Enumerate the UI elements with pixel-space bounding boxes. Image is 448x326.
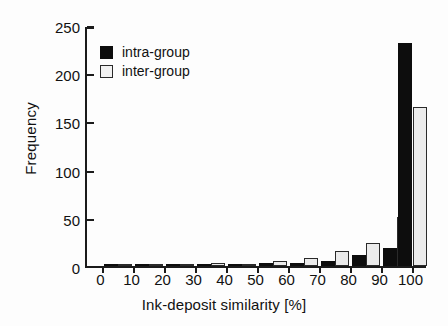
histogram-chart: Frequency 050100150200250 01020304050607…: [0, 0, 448, 326]
x-tick-label: 30: [185, 272, 202, 288]
bar-intra-group: [259, 263, 273, 266]
legend-label: intra-group: [122, 45, 190, 59]
x-tick-label: 80: [340, 272, 357, 288]
x-tick-label: 10: [123, 272, 140, 288]
bar-inter-group: [211, 263, 225, 266]
bar-intra-group: [321, 261, 335, 266]
x-tick-label: 50: [247, 272, 264, 288]
legend-swatch-intra-group-icon: [100, 46, 113, 59]
bar-intra-group: [383, 248, 397, 266]
legend-label: inter-group: [122, 64, 190, 78]
bar-intra-group: [166, 264, 180, 266]
x-tick-label: 60: [278, 272, 295, 288]
x-tick-label: 70: [309, 272, 326, 288]
y-tick-label: 100: [55, 164, 80, 179]
y-tick-label: 0: [72, 261, 80, 276]
x-axis-title: Ink-deposit similarity [%]: [0, 296, 448, 313]
bar-inter-group: [180, 264, 194, 266]
y-axis-tick-labels: 050100150200250: [40, 0, 80, 326]
bar-inter-group: [413, 107, 427, 266]
x-axis-tick-labels: 0102030405060708090100: [85, 272, 426, 292]
y-tick-label: 250: [55, 20, 80, 35]
bar-intra-group: [398, 43, 412, 266]
bar-inter-group: [118, 264, 132, 266]
x-tick-label: 0: [96, 272, 104, 288]
x-tick-label: 40: [216, 272, 233, 288]
y-tick-label: 200: [55, 68, 80, 83]
y-axis-title: Frequency: [22, 49, 39, 229]
bar-intra-group: [290, 263, 304, 266]
bar-intra-group: [197, 264, 211, 266]
legend: intra-groupinter-group: [100, 45, 190, 78]
bar-inter-group: [149, 264, 163, 266]
legend-item: intra-group: [100, 45, 190, 59]
legend-swatch-inter-group-icon: [100, 65, 113, 78]
y-tick-label: 150: [55, 116, 80, 131]
bar-inter-group: [366, 243, 380, 266]
bar-intra-group: [228, 264, 242, 266]
bar-inter-group: [335, 251, 349, 266]
x-tick-label: 90: [371, 272, 388, 288]
bar-intra-group: [135, 264, 149, 266]
bar-intra-group: [104, 264, 118, 266]
y-tick-label: 50: [63, 212, 80, 227]
bar-inter-group: [273, 261, 287, 266]
legend-item: inter-group: [100, 64, 190, 78]
bar-intra-group: [352, 255, 366, 266]
x-tick-label: 100: [398, 272, 423, 288]
x-tick-label: 20: [154, 272, 171, 288]
bar-inter-group: [242, 264, 256, 266]
bar-inter-group: [304, 258, 318, 266]
